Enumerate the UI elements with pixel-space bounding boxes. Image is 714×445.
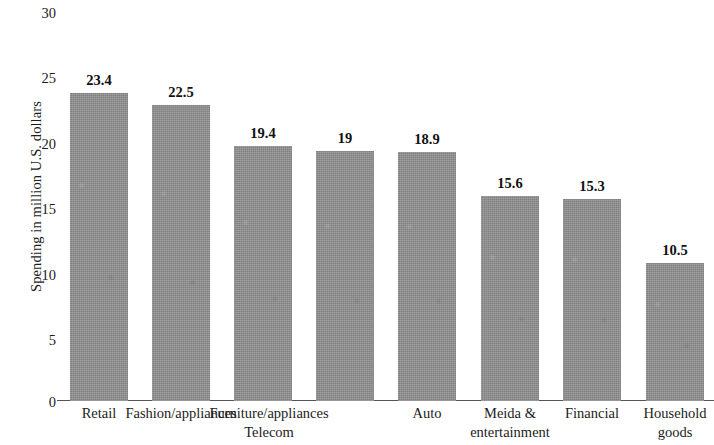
y-tick-label: 20: [16, 137, 56, 152]
bar[interactable]: [646, 263, 704, 401]
bar[interactable]: [398, 152, 456, 401]
y-tick-label: 15: [16, 202, 56, 217]
y-tick-label: 10: [16, 268, 56, 283]
category-label-line2: goods: [610, 423, 714, 442]
bar[interactable]: [70, 93, 128, 401]
bar-value-label: 15.3: [549, 179, 635, 194]
bar-value-label: 15.6: [467, 176, 553, 191]
bar-value-label: 19: [302, 131, 388, 146]
y-tick-label: 25: [16, 71, 56, 86]
category-label-household-goods: Household goods: [610, 404, 714, 442]
y-axis-zero-tick: [57, 400, 62, 401]
category-label-line1: Retail: [82, 405, 117, 421]
category-label-line2: entertainment: [445, 423, 575, 442]
y-tick-label: 30: [16, 6, 56, 21]
category-label-line1: Household: [644, 405, 707, 421]
bar-value-label: 23.4: [56, 73, 142, 88]
plot-area: 23.4 22.5 19.4 19 18.9 15.6 15.3: [62, 6, 714, 401]
bar-value-label: 10.5: [632, 243, 714, 258]
category-label-line2: Telecom: [204, 423, 334, 442]
bar-value-label: 19.4: [220, 126, 306, 141]
bar[interactable]: [152, 105, 210, 401]
y-tick-label: 5: [16, 333, 56, 348]
bar-value-label: 22.5: [138, 85, 224, 100]
bar-value-label: 18.9: [384, 132, 470, 147]
category-label-furniture-appliances-telecom: Furniture/appliances Telecom: [204, 404, 334, 442]
bar[interactable]: [316, 151, 374, 401]
x-axis-category-labels: Retail Fashion/appliances Furniture/appl…: [62, 404, 714, 445]
category-label-line1: Auto: [413, 405, 442, 421]
bar[interactable]: [563, 199, 621, 401]
bar[interactable]: [234, 146, 292, 401]
bar[interactable]: [481, 196, 539, 401]
bar-chart: Spending in million U.S. dollars 30 25 2…: [0, 0, 714, 445]
y-axis-tick-labels: 30 25 20 15 10 5 0: [12, 0, 56, 445]
category-label-line1: Furniture/appliances: [209, 405, 328, 421]
